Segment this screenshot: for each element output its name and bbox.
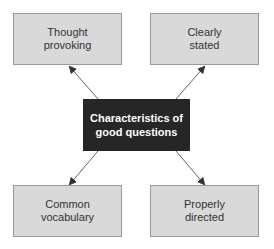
node-label: Clearly stated [180,26,230,52]
node-thought-provoking: Thought provoking [13,13,122,65]
arrow-to-clearly-stated [176,67,204,99]
arrow-to-common-vocabulary [70,151,98,184]
node-properly-directed: Properly directed [150,185,259,237]
node-label: Common vocabulary [38,198,98,224]
node-label: Properly directed [177,198,232,224]
center-label: Characteristics of good questions [87,111,187,139]
node-label: Thought provoking [38,26,98,52]
center-node: Characteristics of good questions [83,99,190,151]
node-common-vocabulary: Common vocabulary [13,185,122,237]
arrow-to-properly-directed [176,151,204,184]
node-clearly-stated: Clearly stated [150,13,259,65]
arrow-to-thought-provoking [70,67,98,99]
